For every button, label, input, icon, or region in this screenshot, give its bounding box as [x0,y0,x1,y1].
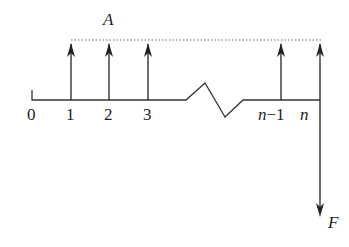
period-label-n-minus-1: n−1 [258,105,285,124]
period-label-n-minus-1-rest: −1 [267,105,285,124]
period-label-0: 0 [27,105,36,124]
period-label-1: 1 [66,105,75,124]
annuity-label: A [102,10,114,29]
period-label-3: 3 [143,105,152,124]
cash-flow-diagram: A 0 1 2 3 n−1 n F [0,0,349,247]
period-label-n: n [300,105,309,124]
future-value-label: F [327,213,339,232]
period-label-2: 2 [104,105,113,124]
period-label-n-minus-1-var: n [258,105,267,124]
